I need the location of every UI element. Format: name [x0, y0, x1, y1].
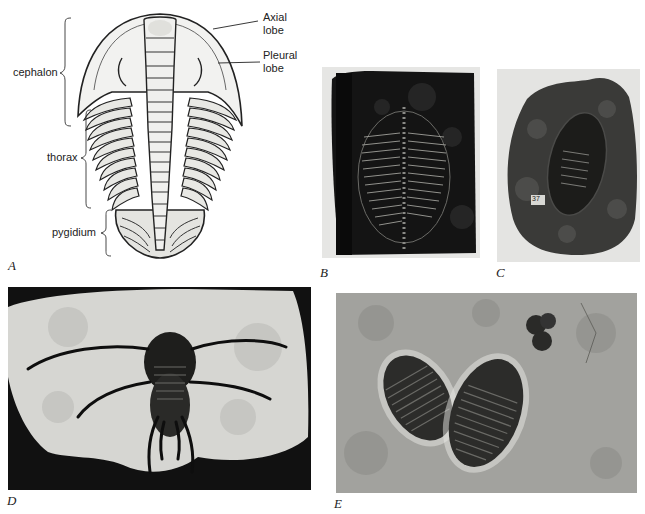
thorax-label: thorax — [47, 151, 78, 164]
panel-b-photo — [322, 67, 480, 258]
panel-label-c: C — [496, 265, 505, 281]
pygidium-bracket — [101, 210, 111, 256]
panel-c-photo: 37 — [497, 69, 640, 262]
panel-label-e: E — [334, 496, 342, 512]
panel-e-photo — [336, 293, 637, 493]
axial-lobe-label-line2: lobe — [263, 24, 284, 37]
panel-label-d: D — [7, 493, 16, 509]
panel-label-b: B — [320, 265, 328, 281]
panel-label-a: A — [8, 258, 16, 274]
pleural-lobe-label-line2: lobe — [263, 62, 284, 75]
cephalon-label: cephalon — [13, 66, 58, 79]
panel-a-leaders — [0, 0, 320, 280]
specimen-tag: 37 — [532, 195, 540, 202]
axial-lobe-label-line1: Axial — [263, 11, 287, 24]
spiny-trilobite-image — [8, 287, 311, 490]
thorax-bracket — [81, 110, 91, 208]
pygidium-label: pygidium — [52, 226, 96, 239]
slate-trilobite-image — [322, 67, 480, 258]
cephalon-bracket — [60, 18, 71, 126]
two-trilobites-image — [336, 293, 637, 493]
nodule-trilobite-image — [497, 69, 640, 262]
panel-d-photo — [8, 287, 311, 490]
pleural-lobe-label-line1: Pleural — [263, 49, 297, 62]
